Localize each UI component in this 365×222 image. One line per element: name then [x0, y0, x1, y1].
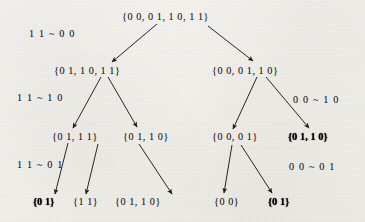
tree-leaf-left-right-right: {0 1, 1 0}	[115, 197, 161, 207]
edge-nrl-rll	[224, 145, 232, 193]
split-label-00-10: 0 0 ~ 1 0	[293, 95, 339, 105]
edge-nr-rl	[233, 77, 257, 129]
tree-node-right: {0 0, 0 1, 1 0}	[212, 66, 278, 76]
tree-node-left-left: {0 1, 1 1}	[52, 132, 98, 142]
edge-nlr-lrr	[139, 144, 172, 194]
tree-node-right-left: {0 0, 0 1}	[212, 132, 258, 142]
split-label-00-01: 0 0 ~ 0 1	[289, 162, 335, 172]
edge-root-right	[208, 26, 253, 61]
edge-nll-llr	[86, 144, 98, 194]
split-label-11-01: 1 1 ~ 0 1	[17, 160, 63, 170]
tree-node-right-right: {0 1, 1 0}	[288, 132, 328, 142]
tree-node-left: {0 1, 1 0, 1 1}	[54, 66, 120, 76]
tree-node-root: {0 0, 0 1, 1 0, 1 1}	[122, 12, 209, 22]
tree-node-left-right: {0 1, 1 0}	[123, 132, 169, 142]
tree-leaf-right-left-left: {0 0}	[214, 197, 239, 207]
edge-nl-lr	[108, 77, 137, 127]
split-label-11-10: 1 1 ~ 1 0	[17, 93, 63, 103]
tree-leaf-left-left-left: {0 1}	[33, 197, 54, 207]
edge-nrl-rlr	[241, 145, 272, 193]
figure-canvas: 1 1 ~ 0 0 1 1 ~ 1 0 1 1 ~ 0 1 0 0 ~ 1 0 …	[0, 0, 365, 222]
edge-nl-ll	[73, 77, 101, 128]
split-label-11-00: 1 1 ~ 0 0	[29, 29, 75, 39]
tree-leaf-right-left-right: {0 1}	[268, 197, 289, 207]
edge-root-left	[112, 24, 157, 62]
tree-leaf-left-left-right: {1 1}	[73, 197, 98, 207]
